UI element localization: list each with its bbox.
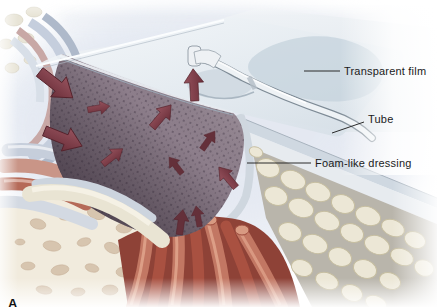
label-transparent-film: Transparent film: [344, 65, 426, 77]
label-tube: Tube: [368, 113, 393, 125]
panel-letter: A: [8, 297, 17, 307]
medical-illustration: [0, 0, 437, 307]
label-foam-dressing: Foam-like dressing: [315, 157, 412, 169]
figure-panel: Transparent film Tube Foam-like dressing…: [0, 0, 437, 307]
